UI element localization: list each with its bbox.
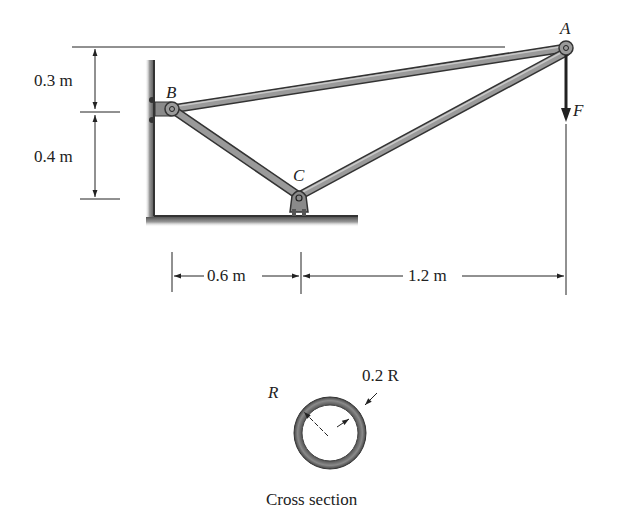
label-b: B xyxy=(166,83,177,102)
label-a: A xyxy=(559,19,571,38)
member-bc xyxy=(172,109,299,196)
dimension-0-4m: 0.4 m xyxy=(34,115,120,199)
dim-label-0-3m: 0.3 m xyxy=(34,71,73,90)
member-ba xyxy=(172,46,566,109)
cross-section: R 0.2 R Cross section xyxy=(266,366,400,509)
label-c: C xyxy=(293,166,305,185)
label-r: R xyxy=(267,383,279,402)
dim-label-1-2m: 1.2 m xyxy=(408,266,447,285)
cross-section-caption: Cross section xyxy=(266,490,358,509)
dimension-horizontal: 0.6 m 1.2 m xyxy=(172,252,564,294)
dim-label-0-6m: 0.6 m xyxy=(207,266,246,285)
label-0-2r: 0.2 R xyxy=(362,366,400,385)
force-f: F xyxy=(561,55,584,122)
wall-support xyxy=(145,60,154,220)
dim-label-0-4m: 0.4 m xyxy=(34,147,73,166)
pin-a: A xyxy=(559,19,573,55)
label-f: F xyxy=(572,101,584,120)
floor-support xyxy=(146,216,358,227)
dimension-0-3m: 0.3 m xyxy=(34,49,120,112)
frame-diagram: 0.3 m 0.4 m B xyxy=(0,0,617,522)
